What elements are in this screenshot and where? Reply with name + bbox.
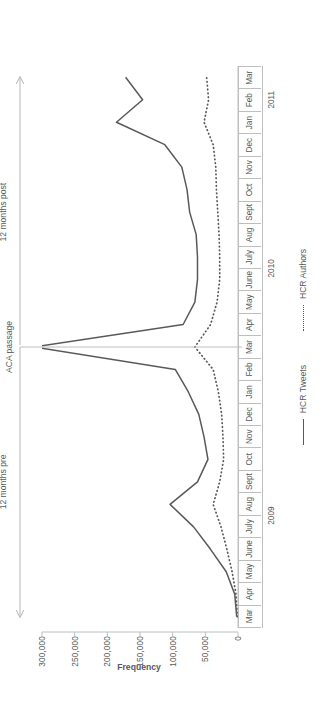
series-line-hcr-tweets	[42, 77, 237, 617]
month-axis-cell: Mar	[239, 66, 261, 88]
chart-figure: 050,000100,000150,000200,000250,000300,0…	[0, 0, 332, 706]
plot-area	[42, 66, 238, 628]
month-axis-cell: Mar	[239, 335, 261, 357]
month-axis-label: Dec	[246, 407, 254, 422]
month-axis-label: July	[246, 519, 254, 534]
dotted-line-swatch-icon	[303, 305, 304, 331]
month-axis-label: Feb	[246, 362, 254, 376]
month-axis-cell: Apr	[239, 313, 261, 335]
month-axis-cell: Aug	[239, 492, 261, 514]
month-axis-cell: Feb	[239, 89, 261, 111]
y-axis-tick-label: 50,000	[200, 636, 210, 706]
year-axis-label: 2011	[267, 91, 276, 109]
month-axis-label: Sept	[246, 473, 254, 490]
month-axis-cell: Apr	[239, 582, 261, 604]
y-axis-title: Frequency	[79, 662, 199, 672]
month-axis-cell: Aug	[239, 223, 261, 245]
month-axis-label: Mar	[246, 340, 254, 354]
legend-label-hcr-authors: HCR Authors	[298, 249, 308, 299]
month-axis-label: Aug	[246, 228, 254, 243]
month-axis-label: July	[246, 250, 254, 265]
month-axis-cell: Oct	[239, 448, 261, 470]
rotated-figure-stage: 050,000100,000150,000200,000250,000300,0…	[0, 0, 332, 706]
month-axis-cell: Nov	[239, 156, 261, 178]
month-axis-label: Oct	[246, 184, 254, 197]
month-axis-label: Oct	[246, 453, 254, 466]
month-axis-label: Aug	[246, 497, 254, 512]
legend-item-hcr-authors: HCR Authors	[298, 249, 308, 331]
month-axis-label: Sept	[246, 204, 254, 221]
month-axis-label: June	[246, 271, 254, 289]
chart-svg	[42, 66, 238, 628]
year-axis-label: 2009	[267, 507, 276, 525]
month-axis-label: Mar	[246, 609, 254, 623]
month-axis-label: Mar	[246, 71, 254, 85]
month-axis-cell: Sept	[239, 201, 261, 223]
month-axis-cell: July	[239, 515, 261, 537]
chart-legend: HCR Tweets HCR Authors	[292, 66, 314, 628]
month-axis-label: May	[246, 294, 254, 309]
month-axis-cell: Mar	[239, 605, 261, 628]
month-axis-label: June	[246, 540, 254, 558]
year-axis-cell: 2009	[262, 403, 279, 628]
month-axis-cell: Nov	[239, 425, 261, 447]
legend-label-hcr-tweets: HCR Tweets	[298, 365, 308, 413]
month-axis-cell: Sept	[239, 470, 261, 492]
year-axis-cell: 2010	[262, 133, 279, 403]
annotation-label-post: 12 months post	[0, 122, 8, 302]
month-axis-label: Dec	[246, 138, 254, 153]
month-axis-label: Nov	[246, 430, 254, 445]
annotation-label-event: ACA passage	[4, 287, 14, 407]
year-axis-cell: 2011	[262, 66, 279, 133]
legend-item-hcr-tweets: HCR Tweets	[298, 365, 308, 445]
month-axis-label: Nov	[246, 160, 254, 175]
month-axis-cell: Feb	[239, 358, 261, 380]
month-axis-cell: May	[239, 290, 261, 312]
month-axis-cell: Oct	[239, 178, 261, 200]
month-axis-cell: Dec	[239, 403, 261, 425]
month-axis-cell: July	[239, 246, 261, 268]
month-axis-cell: June	[239, 537, 261, 559]
month-axis-label: Jan	[246, 385, 254, 398]
month-axis-cell: Jan	[239, 380, 261, 402]
month-axis-label: Apr	[246, 318, 254, 331]
solid-line-swatch-icon	[303, 419, 304, 445]
month-axis-label: Feb	[246, 93, 254, 107]
month-axis-cell: June	[239, 268, 261, 290]
month-axis-label: Jan	[246, 116, 254, 129]
year-axis-label: 2010	[267, 259, 276, 277]
y-axis-tick-label: 0	[233, 636, 243, 706]
month-axis-cell: May	[239, 560, 261, 582]
month-axis-cell: Dec	[239, 133, 261, 155]
month-axis-cell: Jan	[239, 111, 261, 133]
month-axis-label: May	[246, 564, 254, 579]
year-axis: 200920102011	[262, 66, 278, 628]
y-axis-tick-label: 300,000	[37, 636, 47, 706]
month-axis-label: Apr	[246, 587, 254, 600]
annotation-label-pre: 12 months pre	[0, 392, 8, 572]
